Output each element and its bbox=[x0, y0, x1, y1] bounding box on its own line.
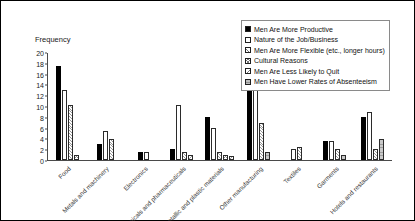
y-tick-mark bbox=[45, 107, 47, 108]
y-tick-mark bbox=[45, 139, 47, 140]
x-axis-line bbox=[47, 160, 392, 161]
bar bbox=[176, 105, 181, 160]
bar bbox=[373, 149, 378, 160]
bar bbox=[297, 147, 302, 160]
legend-item[interactable]: Cultural Reasons bbox=[245, 56, 385, 67]
bar-group bbox=[124, 53, 162, 160]
x-tick-label: Food bbox=[57, 165, 73, 181]
bar bbox=[265, 152, 270, 160]
x-label-cell: Hotels and restaurants bbox=[355, 163, 393, 221]
bar bbox=[323, 141, 328, 160]
y-tick-mark bbox=[45, 161, 47, 162]
bar bbox=[367, 112, 372, 160]
bar bbox=[170, 149, 175, 160]
legend-swatch-icon bbox=[245, 37, 251, 43]
y-axis-title: Frequency bbox=[35, 35, 70, 44]
bar bbox=[205, 117, 210, 160]
legend-label: Men Have Lower Rates of Absenteeism bbox=[254, 78, 377, 85]
bar-group bbox=[48, 53, 86, 160]
bar bbox=[56, 66, 61, 160]
y-tick-mark bbox=[45, 150, 47, 151]
legend-item[interactable]: Men Are Less Likely to Quit bbox=[245, 66, 385, 77]
y-tick-mark bbox=[45, 85, 47, 86]
x-label-cell: Textiles bbox=[278, 163, 316, 221]
chart-legend: Men Are More ProductiveNature of the Job… bbox=[241, 20, 390, 91]
legend-label: Men Are Less Likely to Quit bbox=[254, 68, 339, 75]
bar-group bbox=[86, 53, 124, 160]
bar bbox=[379, 139, 384, 160]
x-label-cell: Other manufacturing bbox=[240, 163, 278, 221]
legend-swatch-icon bbox=[245, 47, 251, 53]
bar bbox=[253, 90, 258, 160]
y-tick-mark bbox=[45, 74, 47, 75]
x-axis-labels: FoodMetals and machineryElectronicsChemi… bbox=[48, 163, 393, 221]
bar bbox=[291, 149, 296, 160]
legend-label: Men Are More Flexible (etc., longer hour… bbox=[254, 47, 385, 54]
legend-label: Men Are More Productive bbox=[254, 26, 333, 33]
y-tick-mark bbox=[45, 117, 47, 118]
x-tick-label: Electronics bbox=[122, 165, 149, 192]
bar bbox=[361, 117, 366, 160]
bar bbox=[247, 88, 252, 160]
bar bbox=[229, 156, 234, 160]
bar bbox=[335, 149, 340, 160]
y-tick-mark bbox=[45, 96, 47, 97]
chart-figure: Frequency 02468101214161820 FoodMetals a… bbox=[0, 0, 415, 221]
y-tick-mark bbox=[45, 63, 47, 64]
bar bbox=[223, 155, 228, 160]
bar-group bbox=[201, 53, 239, 160]
legend-swatch-icon bbox=[245, 26, 251, 32]
bar bbox=[138, 152, 143, 160]
bar bbox=[144, 152, 149, 160]
legend-label: Cultural Reasons bbox=[254, 57, 308, 64]
bar-group bbox=[163, 53, 201, 160]
bar bbox=[217, 152, 222, 160]
y-tick-mark bbox=[45, 53, 47, 54]
x-tick-label: Textiles bbox=[282, 165, 302, 185]
y-tick-mark bbox=[45, 128, 47, 129]
legend-item[interactable]: Men Are More Productive bbox=[245, 24, 385, 35]
x-label-cell: Metals and machinery bbox=[86, 163, 124, 221]
bar bbox=[211, 128, 216, 160]
bar bbox=[74, 155, 79, 160]
x-tick-label: Garments bbox=[316, 165, 341, 190]
legend-item[interactable]: Nature of the Job/Business bbox=[245, 35, 385, 46]
bar bbox=[182, 152, 187, 160]
bar bbox=[259, 123, 264, 160]
bar bbox=[68, 105, 73, 160]
bar bbox=[103, 131, 108, 160]
legend-label: Nature of the Job/Business bbox=[254, 36, 338, 43]
legend-swatch-icon bbox=[245, 68, 251, 74]
bar bbox=[329, 141, 334, 160]
legend-item[interactable]: Men Have Lower Rates of Absenteeism bbox=[245, 77, 385, 88]
legend-swatch-icon bbox=[245, 79, 251, 85]
bar bbox=[341, 155, 346, 160]
legend-item[interactable]: Men Are More Flexible (etc., longer hour… bbox=[245, 45, 385, 56]
legend-swatch-icon bbox=[245, 58, 251, 64]
bar bbox=[109, 139, 114, 160]
bar bbox=[62, 90, 67, 160]
bar bbox=[97, 144, 102, 160]
bar bbox=[188, 155, 193, 160]
